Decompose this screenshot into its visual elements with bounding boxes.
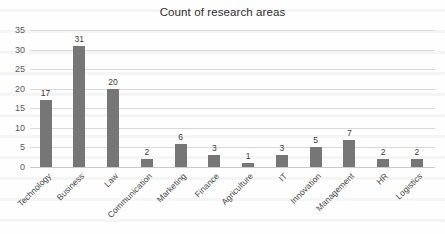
x-axis-line — [30, 167, 435, 168]
bar-slot: 31 — [64, 30, 95, 167]
bar[interactable] — [208, 155, 220, 167]
bar[interactable] — [343, 140, 355, 167]
bar-slot: 1 — [233, 30, 264, 167]
bars-group: 173120263135722 — [30, 30, 435, 167]
y-axis-tick-label: 10 — [15, 123, 25, 133]
bar-slot: 6 — [165, 30, 196, 167]
bar-value-label: 3 — [212, 143, 217, 153]
bar-value-label: 17 — [41, 88, 50, 98]
x-axis-tick-label: Finance — [193, 171, 221, 199]
y-axis-tick-label: 25 — [15, 64, 25, 74]
chart-title: Count of research areas — [0, 6, 445, 18]
bar-value-label: 2 — [144, 147, 149, 157]
bar[interactable] — [377, 159, 389, 167]
bar-value-label: 2 — [381, 147, 386, 157]
x-axis-tick-label: Technology — [15, 171, 52, 208]
y-axis-tick-label: 35 — [15, 25, 25, 35]
x-label-slot: Logistics — [401, 169, 432, 233]
bar-value-label: 1 — [246, 151, 251, 161]
bar[interactable] — [276, 155, 288, 167]
bar-value-label: 5 — [313, 135, 318, 145]
bar[interactable] — [73, 46, 85, 167]
bar[interactable] — [411, 159, 423, 167]
bar-value-label: 31 — [75, 34, 84, 44]
bar-slot: 2 — [401, 30, 432, 167]
x-axis-labels-group: TechnologyBusinessLawCommunicationMarket… — [30, 169, 435, 233]
bar-slot: 3 — [266, 30, 297, 167]
bar-slot: 3 — [199, 30, 230, 167]
bar-value-label: 3 — [279, 143, 284, 153]
bar-slot: 2 — [368, 30, 399, 167]
bar[interactable] — [310, 147, 322, 167]
x-label-slot: Marketing — [165, 169, 196, 233]
bar[interactable] — [141, 159, 153, 167]
bar-value-label: 7 — [347, 128, 352, 138]
bar-value-label: 2 — [414, 147, 419, 157]
bar-value-label: 20 — [108, 77, 117, 87]
x-label-slot: Management — [334, 169, 365, 233]
y-axis-tick-label: 30 — [15, 45, 25, 55]
bar-slot: 7 — [334, 30, 365, 167]
bar-slot: 20 — [98, 30, 129, 167]
bar[interactable] — [40, 100, 52, 167]
y-axis-tick-label: 15 — [15, 103, 25, 113]
bar-slot: 2 — [131, 30, 162, 167]
x-label-slot: Agriculture — [233, 169, 264, 233]
bar[interactable] — [242, 163, 254, 167]
x-axis-tick-label: Law — [102, 171, 120, 189]
x-label-slot: Technology — [30, 169, 61, 233]
plot-area: 05101520253035 173120263135722 — [30, 30, 435, 167]
x-axis-tick-label: HR — [374, 171, 390, 187]
x-label-slot: HR — [368, 169, 399, 233]
bar-chart: Count of research areas 05101520253035 1… — [0, 0, 445, 234]
y-axis-tick-label: 20 — [15, 84, 25, 94]
bar-value-label: 6 — [178, 132, 183, 142]
x-axis-tick-label: IT — [276, 171, 288, 183]
bar-slot: 5 — [300, 30, 331, 167]
bar-slot: 17 — [30, 30, 61, 167]
y-axis-tick-label: 5 — [20, 142, 25, 152]
x-label-slot: Business — [64, 169, 95, 233]
bar[interactable] — [107, 89, 119, 167]
bar[interactable] — [175, 144, 187, 167]
y-axis-tick-label: 0 — [20, 162, 25, 172]
